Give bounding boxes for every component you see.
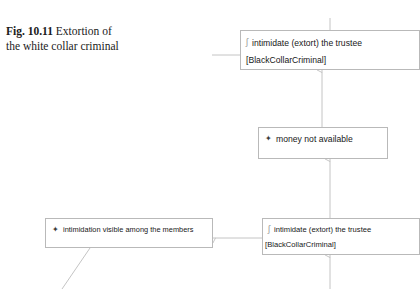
signal-receive-icon: ✦ (265, 135, 272, 143)
edge-bottom-left-diagonal (62, 248, 90, 289)
node-br-label: intimidate (extort) the trustee (274, 225, 371, 234)
node-bl-title-row: ✦ intimidation visible among the members (46, 219, 212, 236)
node-br-title-row: ʃ intimidate (extort) the trustee (263, 219, 419, 236)
node-mid-title-row: ✦ money not available (259, 128, 387, 146)
action-glyph-icon: ʃ (246, 38, 248, 47)
node-intimidate-trustee-top[interactable]: ʃ intimidate (extort) the trustee [Black… (240, 30, 420, 70)
node-intimidation-visible[interactable]: ✦ intimidation visible among the members (45, 218, 213, 248)
signal-receive-icon: ✦ (52, 225, 59, 233)
action-glyph-icon: ʃ (268, 224, 270, 233)
node-mid-label: money not available (276, 134, 353, 144)
node-bl-label: intimidation visible among the members (63, 225, 194, 234)
figure-canvas: Fig. 10.11 Extortion of the white collar… (0, 0, 420, 289)
node-top-sublabel-row: [BlackCollarCriminal] (241, 50, 419, 69)
node-br-sublabel-row: [BlackCollarCriminal] (263, 236, 419, 253)
node-intimidate-trustee-bottom[interactable]: ʃ intimidate (extort) the trustee [Black… (262, 218, 420, 255)
node-top-sublabel: [BlackCollarCriminal] (246, 55, 326, 65)
node-money-not-available[interactable]: ✦ money not available (258, 127, 388, 159)
node-br-sublabel: [BlackCollarCriminal] (265, 240, 336, 249)
node-top-title-row: ʃ intimidate (extort) the trustee (241, 31, 419, 50)
node-top-label: intimidate (extort) the trustee (252, 38, 362, 48)
